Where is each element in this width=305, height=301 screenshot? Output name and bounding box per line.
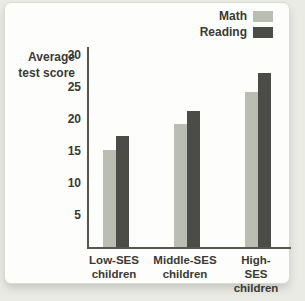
y-tick-label: 15 [47,143,81,159]
y-tick-label: 25 [47,79,81,95]
x-category-label: High-SES children [234,253,279,295]
bar-math-group2 [174,124,187,247]
bar-math-group3 [245,92,258,247]
y-tick-label: 30 [47,47,81,63]
x-category-label: Low-SES children [89,253,139,281]
legend-label-reading: Reading [200,26,247,39]
bar-reading-group1 [116,136,129,247]
chart-card: Math Reading Average test score 51015202… [4,2,290,284]
bar-reading-group3 [258,73,271,247]
y-tick-label: 10 [47,175,81,191]
y-tick-label: 20 [47,111,81,127]
x-category-label: Middle-SES children [153,253,216,281]
legend-item-reading: Reading [200,26,273,39]
legend-item-math: Math [200,10,273,23]
y-axis-tick-labels: 51015202530 [47,47,81,247]
x-axis-labels: Low-SES childrenMiddle-SES childrenHigh-… [87,253,289,285]
legend-swatch-reading [253,27,273,38]
figure-background: Math Reading Average test score 51015202… [0,0,305,301]
legend-label-math: Math [219,10,247,23]
bar-reading-group2 [187,111,200,247]
bar-math-group1 [103,150,116,247]
y-tick-label: 5 [47,207,81,223]
legend-swatch-math [253,11,273,22]
plot-area [87,47,291,249]
legend: Math Reading [200,10,273,39]
